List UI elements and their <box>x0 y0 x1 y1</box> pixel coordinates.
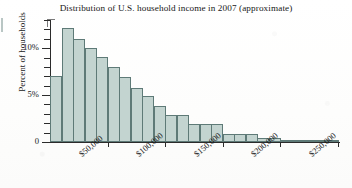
histogram-bar <box>246 134 258 142</box>
histogram-bar <box>165 115 177 142</box>
y-axis-tick <box>42 95 50 96</box>
plot-area <box>50 20 338 142</box>
page-edge-artifact <box>1 18 3 32</box>
histogram-bar <box>85 48 97 142</box>
y-axis-tick <box>42 142 50 143</box>
histogram-bar <box>108 67 120 142</box>
x-axis-tick <box>165 143 166 147</box>
x-axis-tick <box>223 143 224 147</box>
histogram-bar <box>223 134 235 142</box>
histogram-bar <box>303 140 315 142</box>
x-axis-tick <box>280 143 281 147</box>
histogram-bar <box>119 77 131 142</box>
histogram-bar <box>188 124 200 142</box>
histogram-bar <box>280 140 292 142</box>
histogram-bar <box>96 57 108 142</box>
histogram-bar <box>131 88 143 142</box>
histogram-bar <box>234 134 246 142</box>
chart-figure: Distribution of U.S. household income in… <box>0 0 352 188</box>
histogram-bar <box>73 39 85 142</box>
y-axis-tick-label: 10% <box>8 42 39 52</box>
histogram-bar <box>50 76 62 142</box>
chart-title: Distribution of U.S. household income in… <box>0 3 352 13</box>
y-axis-tick <box>42 48 50 49</box>
histogram-bar <box>177 115 189 142</box>
x-axis-tick <box>338 143 339 147</box>
histogram-bar <box>292 140 304 142</box>
histogram-bar <box>62 28 74 142</box>
y-axis-tick-label: 0 <box>8 136 39 146</box>
x-axis-tick <box>108 143 109 147</box>
y-axis-tick-label: 5% <box>8 89 39 99</box>
